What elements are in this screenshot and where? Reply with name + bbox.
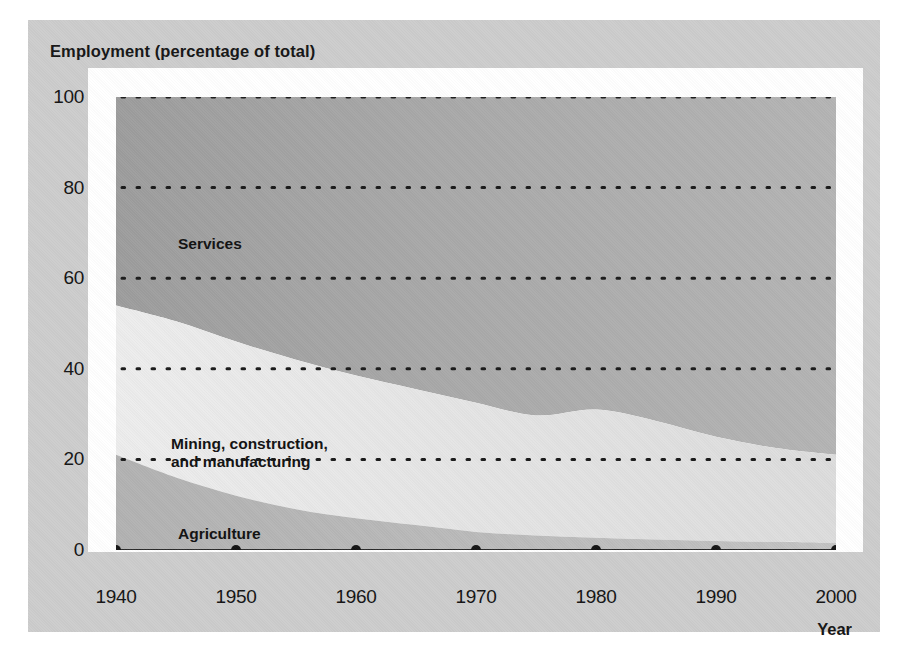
area-label-services: Services [178,235,242,253]
x-tick-label: 1940 [95,586,136,608]
area-label-agriculture: Agriculture [178,525,261,543]
y-tick-label: 80 [38,177,84,199]
x-tick-label: 1980 [575,586,616,608]
x-tick-label: 2000 [815,586,856,608]
chart-figure: Employment (percentage of total) [28,20,880,632]
y-tick-label: 100 [38,86,84,108]
y-axis-ticks: 020406080100 [38,97,84,550]
y-tick-label: 40 [38,358,84,380]
x-tick-label: 1950 [215,586,256,608]
x-tick-label: 1960 [335,586,376,608]
x-axis-title: Year [817,620,852,639]
area-label-mining: Mining, construction, and manufacturing [171,435,328,471]
y-tick-label: 0 [38,539,84,561]
x-tick-label: 1990 [695,586,736,608]
y-tick-label: 60 [38,267,84,289]
y-axis-title: Employment (percentage of total) [50,42,315,61]
x-tick-label: 1970 [455,586,496,608]
x-axis-ticks: 1940195019601970198019902000 [116,586,836,616]
stacked-area-svg [116,97,836,550]
y-tick-label: 20 [38,448,84,470]
plot-area: Services Mining, construction, and manuf… [116,97,836,550]
